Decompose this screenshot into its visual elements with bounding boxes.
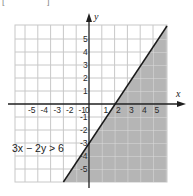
x-axis-label: x bbox=[175, 88, 181, 99]
x-tick: -4 bbox=[41, 105, 49, 115]
x-tick: -5 bbox=[28, 105, 36, 115]
x-tick: -3 bbox=[54, 105, 62, 115]
x-tick: -2 bbox=[66, 105, 74, 115]
y-tick: 1 bbox=[83, 86, 88, 96]
y-tick: -2 bbox=[80, 125, 88, 135]
y-tick: -3 bbox=[80, 138, 88, 148]
inequality-label: 3x − 2y > 6 bbox=[12, 142, 64, 154]
y-tick: 4 bbox=[83, 47, 88, 57]
x-axis-arrow-icon bbox=[177, 101, 186, 107]
inequality-graph: x y -5 -4 -3 -2 -1 0 1 2 3 4 5 5 4 3 2 1… bbox=[0, 0, 193, 196]
x-tick: 4 bbox=[142, 105, 147, 115]
y-tick: -4 bbox=[80, 151, 88, 161]
y-tick: -1 bbox=[80, 112, 88, 122]
x-tick: 5 bbox=[155, 105, 160, 115]
y-tick: 5 bbox=[83, 34, 88, 44]
y-tick: 2 bbox=[83, 73, 88, 83]
y-axis-arrow-icon bbox=[86, 13, 92, 22]
x-tick: 2 bbox=[116, 105, 121, 115]
y-tick: -5 bbox=[80, 164, 88, 174]
y-axis-label: y bbox=[93, 11, 99, 22]
x-tick: 3 bbox=[129, 105, 134, 115]
y-tick: 3 bbox=[83, 60, 88, 70]
x-tick: 1 bbox=[104, 105, 109, 115]
